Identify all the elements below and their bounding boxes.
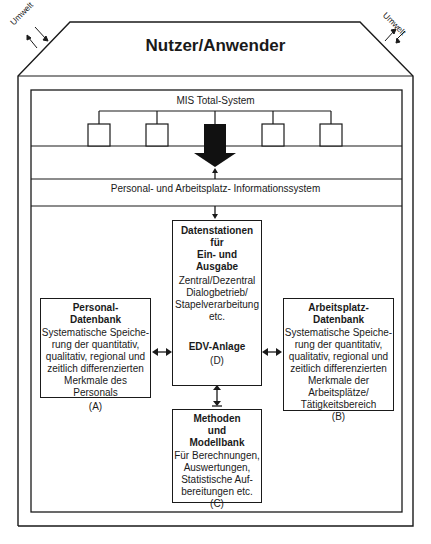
- box-id: (B): [284, 411, 393, 423]
- box-body-line: Tätigkeitsbereich: [284, 399, 393, 411]
- methoden-modellbank-box: Methoden und Modellbank Für Berechnungen…: [172, 409, 262, 503]
- mis-total-system-label: MIS Total-System: [0, 95, 431, 106]
- box-body-line: Systematische Speiche-: [41, 327, 150, 339]
- personal-datenbank-box: Personal- Datenbank Systematische Speich…: [40, 298, 151, 398]
- box-heading: Personal-: [41, 302, 150, 314]
- box-body-line: bereitungen etc.: [173, 486, 261, 498]
- box-heading: Methoden: [173, 413, 261, 425]
- pai-system-label: Personal- und Arbeitsplatz- Informations…: [0, 183, 431, 194]
- box-body-line: Arbeitsplätze/: [284, 387, 393, 399]
- box-heading: Datenbank: [284, 314, 393, 326]
- box-body-line: zeitlich differenzierten: [284, 363, 393, 375]
- box-id: (A): [41, 401, 150, 413]
- box-heading: und: [173, 425, 261, 437]
- box-heading: Datenbank: [41, 314, 150, 326]
- box-heading: Ausgabe: [173, 261, 261, 273]
- box-body-line: Statistische Auf-: [173, 474, 261, 486]
- edv-id: (D): [173, 355, 261, 367]
- box-body-line: Systematische Speiche-: [284, 327, 393, 339]
- edv-heading: EDV-Anlage: [173, 341, 261, 353]
- box-heading: Ein- und: [173, 249, 261, 261]
- box-body-line: Merkmale des Personals: [41, 375, 150, 399]
- box-body-line: Dialogbetrieb/: [173, 287, 261, 299]
- box-body-line: etc.: [173, 311, 261, 323]
- box-body-line: Zentral/Dezentral: [173, 275, 261, 287]
- box-body-line: Merkmale der: [284, 375, 393, 387]
- box-heading: Datenstationen: [173, 225, 261, 237]
- edv-datenstationen-box: Datenstationen für Ein- und Ausgabe Zent…: [172, 220, 262, 386]
- box-id: (C): [173, 498, 261, 510]
- box-body-line: zeitlich differenzierten: [41, 363, 150, 375]
- box-body-line: rung der quantitativ,: [41, 339, 150, 351]
- box-body-line: qualitativ, regional und: [41, 351, 150, 363]
- box-body-line: qualitativ, regional und: [284, 351, 393, 363]
- diagram-title: Nutzer/Anwender: [0, 36, 431, 56]
- box-body-line: Auswertungen,: [173, 462, 261, 474]
- box-body-line: rung der quantitativ,: [284, 339, 393, 351]
- box-heading: Modellbank: [173, 437, 261, 449]
- box-heading: für: [173, 237, 261, 249]
- box-heading: Arbeitsplatz-: [284, 302, 393, 314]
- arbeitsplatz-datenbank-box: Arbeitsplatz- Datenbank Systematische Sp…: [283, 298, 394, 411]
- box-body-line: Für Berechnungen,: [173, 450, 261, 462]
- box-body-line: Stapelverarbeitung: [173, 299, 261, 311]
